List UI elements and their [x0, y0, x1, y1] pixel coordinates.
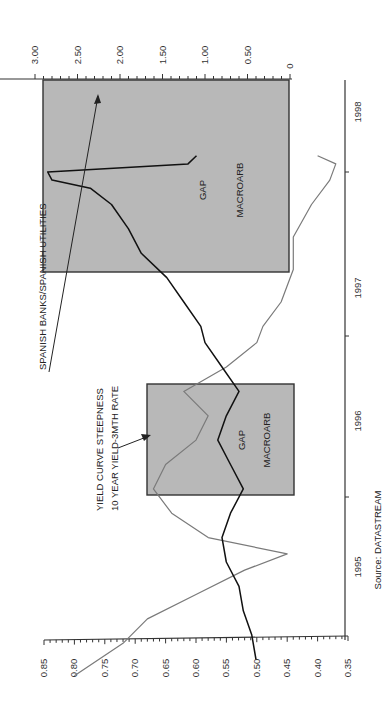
- left-scale-ticks: [44, 636, 348, 645]
- shaded-region-1997-1998: [43, 80, 289, 272]
- source-label: Source: DATASTREAM: [372, 490, 383, 589]
- svg-text:0.35: 0.35: [342, 659, 353, 678]
- annotation-yield-formula: 10 YEAR YIELD-3MTH RATE: [109, 386, 120, 511]
- annotation-spanish-banks: SPANISH BANKS/SPANISH UTILITIES: [37, 204, 48, 370]
- svg-text:0.70: 0.70: [129, 659, 140, 678]
- svg-text:0.75: 0.75: [99, 659, 110, 678]
- svg-text:0.45: 0.45: [281, 659, 292, 678]
- svg-text:2.50: 2.50: [72, 46, 83, 65]
- time-axis: 1998 1997 1996 1995: [345, 80, 363, 640]
- svg-text:3.00: 3.00: [29, 46, 40, 65]
- svg-text:0.50: 0.50: [251, 659, 262, 678]
- svg-text:0.60: 0.60: [190, 659, 201, 678]
- year-label-1996: 1996: [352, 410, 363, 431]
- year-label-1995: 1995: [352, 556, 363, 577]
- svg-text:1.50: 1.50: [157, 46, 168, 65]
- svg-text:0.65: 0.65: [160, 659, 171, 678]
- box2-gap-label: GAP: [236, 430, 247, 450]
- rotated-line-chart: 1998 1997 1996 1995 0.850.800.750.700.65…: [0, 0, 389, 702]
- year-label-1997: 1997: [352, 277, 363, 298]
- right-scale-axis: 3.002.502.001.501.000.500: [0, 46, 295, 79]
- svg-text:0.50: 0.50: [242, 46, 253, 65]
- svg-text:0.85: 0.85: [38, 659, 49, 678]
- box1-gap-label: GAP: [197, 180, 208, 200]
- svg-text:2.00: 2.00: [114, 46, 125, 65]
- right-scale-ticks: [35, 74, 290, 79]
- year-label-1998: 1998: [352, 101, 363, 122]
- box2-macroarb-label: MACROARB: [261, 413, 272, 468]
- right-scale-tick-labels: 3.002.502.001.501.000.500: [29, 46, 295, 69]
- annotation-yield-steepness: YIELD CURVE STEEPNESS: [94, 388, 105, 511]
- svg-text:1.00: 1.00: [199, 46, 210, 65]
- svg-text:0.40: 0.40: [312, 659, 323, 678]
- svg-text:0.80: 0.80: [68, 659, 79, 678]
- svg-text:0.55: 0.55: [220, 659, 231, 678]
- left-scale-axis: 0.850.800.750.700.650.600.550.500.450.40…: [38, 636, 353, 677]
- svg-text:0: 0: [284, 63, 295, 68]
- box1-macroarb-label: MACROARB: [234, 163, 245, 218]
